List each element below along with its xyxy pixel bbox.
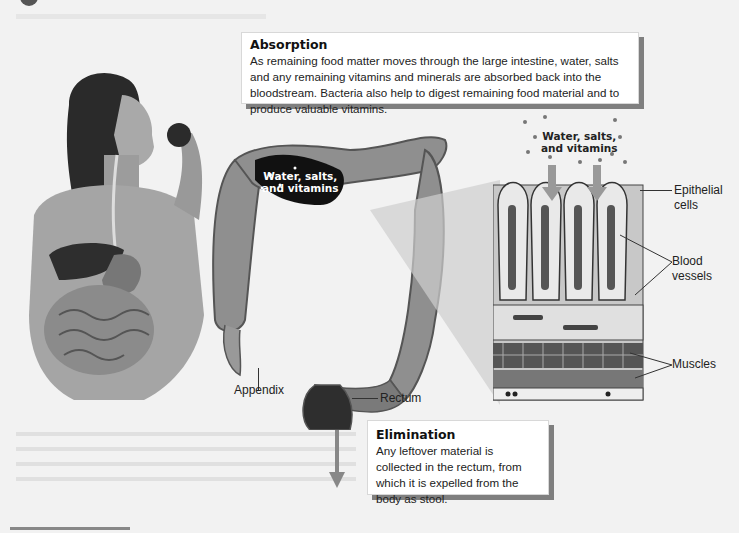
divider <box>10 527 130 530</box>
section-marker-icon <box>20 0 38 6</box>
epithelial-line2: cells <box>674 198 723 213</box>
zoom-connector <box>370 180 510 410</box>
tissue-label-line2: and vitamins <box>541 142 618 154</box>
epithelial-leader <box>640 190 672 191</box>
blood-vessels-leader <box>620 230 675 300</box>
elimination-title: Elimination <box>376 427 540 442</box>
elimination-callout: Elimination Any leftover material is col… <box>367 420 549 495</box>
epithelial-line1: Epithelial <box>674 183 723 198</box>
elimination-body: Any leftover material is collected in th… <box>376 443 540 507</box>
absorption-callout: Absorption As remaining food matter move… <box>241 32 639 104</box>
rectum-leader <box>352 398 378 399</box>
blood-line2: vessels <box>672 269 712 284</box>
blood-vessels-label: Blood vessels <box>672 254 712 284</box>
absorption-title: Absorption <box>250 37 630 52</box>
appendix-label: Appendix <box>234 383 284 398</box>
textbook-page: Water, salts, and vitamins <box>0 0 739 533</box>
faded-heading <box>16 14 266 19</box>
absorption-body: As remaining food matter moves through t… <box>250 53 630 117</box>
faded-text-line <box>16 477 356 481</box>
muscles-leader <box>630 350 675 380</box>
epithelial-cells-label: Epithelial cells <box>674 183 723 213</box>
faded-text-line <box>16 462 356 466</box>
colon-absorption-label: Water, salts, and vitamins <box>262 170 339 194</box>
woman-illustration <box>14 55 229 415</box>
colon-label-line1: Water, salts, <box>262 170 339 182</box>
colon-label-line2: and vitamins <box>262 182 339 194</box>
muscles-label: Muscles <box>672 357 716 372</box>
rectum-label: Rectum <box>380 391 421 406</box>
faded-text-line <box>16 432 356 436</box>
blood-line1: Blood <box>672 254 712 269</box>
tissue-label-line1: Water, salts, <box>541 130 618 142</box>
tissue-absorption-label: Water, salts, and vitamins <box>541 130 618 154</box>
down-arrow-icon <box>327 430 347 490</box>
faded-text-line <box>16 447 356 451</box>
